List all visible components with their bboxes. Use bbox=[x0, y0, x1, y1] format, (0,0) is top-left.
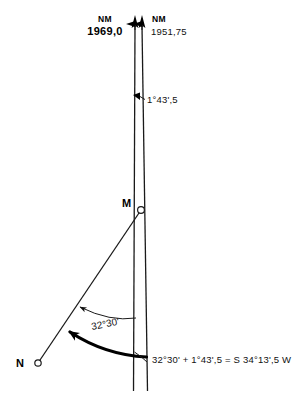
bearing-angle-label: 32°30' bbox=[90, 316, 120, 332]
bearing-angle-arc: 32°30' bbox=[80, 307, 136, 332]
convergence-angle-label: 1°43',5 bbox=[147, 94, 178, 105]
bearing-formula: 32°30' + 1°43',5 = S 34°13',5 W bbox=[152, 354, 291, 365]
convergence-angle-annotation: 1°43',5 bbox=[133, 93, 178, 106]
station-n-label: N bbox=[16, 357, 24, 369]
station-m: M bbox=[122, 197, 144, 213]
nm-left-value: 1969,0 bbox=[87, 25, 122, 37]
station-m-label: M bbox=[122, 197, 131, 209]
bearing-diagram: NM 1969,0 NM 1951,75 1°43',5 M N 32°30' … bbox=[0, 0, 301, 405]
nm-left-unit: NM bbox=[98, 14, 112, 24]
total-bearing-arc bbox=[70, 332, 147, 357]
nm-left-label: NM 1969,0 bbox=[87, 14, 122, 37]
bearing-line-mn bbox=[38, 210, 141, 363]
station-n-node bbox=[35, 360, 41, 366]
nm-right-label: NM 1951,75 bbox=[151, 14, 187, 37]
nm-right-unit: NM bbox=[152, 14, 166, 24]
bearing-formula-label: 32°30' + 1°43',5 = S 34°13',5 W bbox=[152, 354, 291, 365]
grid-north-line bbox=[134, 24, 136, 391]
station-n: N bbox=[16, 357, 41, 369]
station-m-node bbox=[138, 207, 145, 214]
nm-right-value: 1951,75 bbox=[151, 26, 187, 37]
